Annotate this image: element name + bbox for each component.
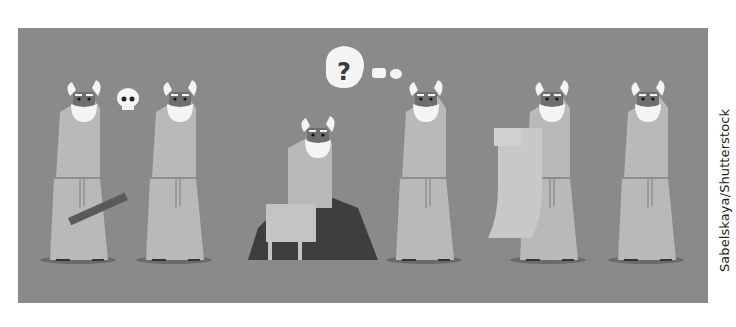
figure-standing-with-stick	[40, 80, 128, 264]
illustration-panel: ?	[18, 28, 708, 303]
figure-standing-with-skull	[136, 80, 212, 264]
figure-thinking	[386, 80, 462, 264]
thought-bubble: ?	[326, 46, 402, 88]
credit-text: Sabelskaya/Shutterstock	[718, 108, 733, 271]
philosopher-illustration: ?	[18, 28, 708, 303]
figure-reading-scroll	[488, 80, 586, 264]
svg-text:?: ?	[337, 58, 351, 86]
figure-standing-walking	[608, 80, 684, 264]
skull	[117, 88, 139, 110]
figure-sitting-on-rock	[248, 116, 378, 260]
image-credit: Sabelskaya/Shutterstock	[714, 80, 736, 300]
